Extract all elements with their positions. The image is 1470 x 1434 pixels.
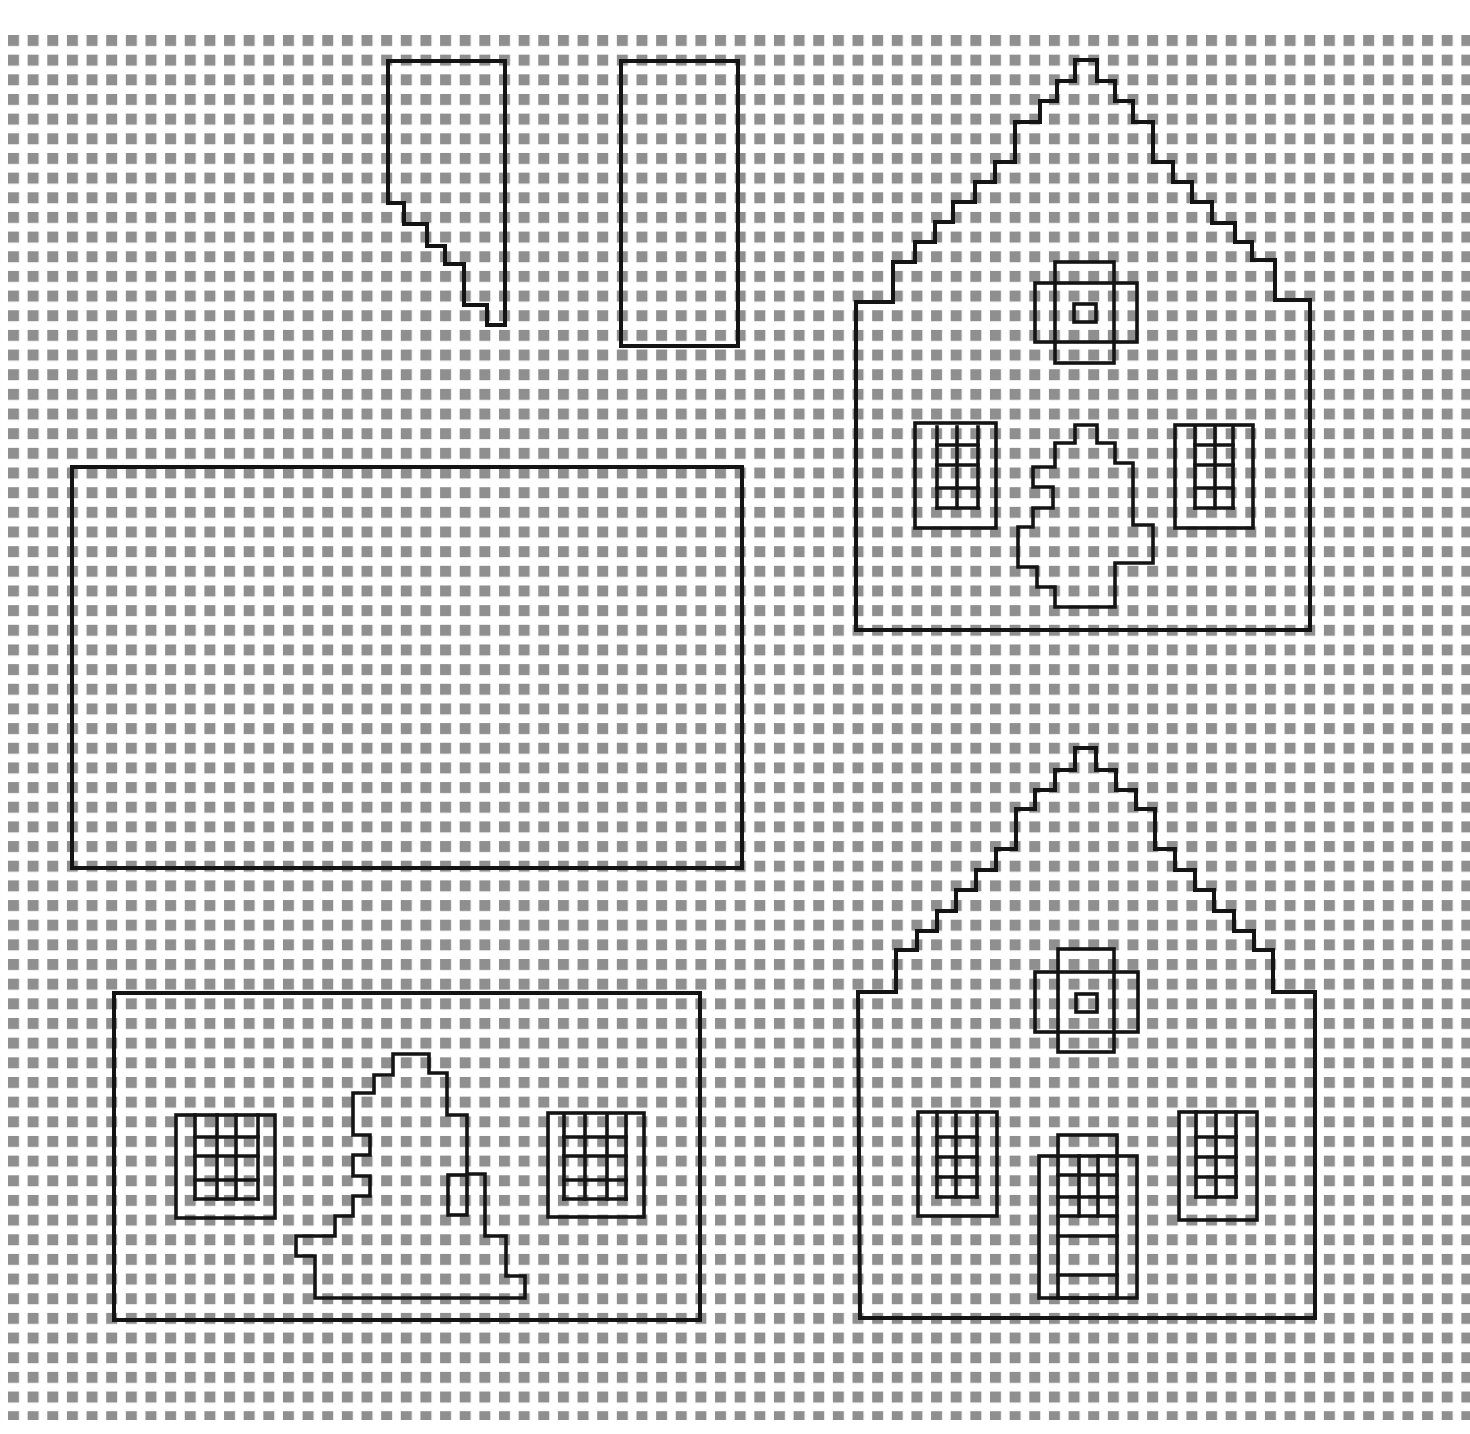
canvas-pattern [0,0,1470,1434]
